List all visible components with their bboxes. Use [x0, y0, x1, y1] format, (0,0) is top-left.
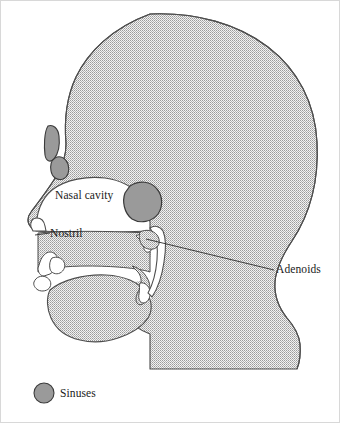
label-nostril: Nostril: [50, 228, 83, 240]
legend-swatch-sinuses: [34, 383, 54, 403]
anatomy-figure: Nasal cavity Nostril Adenoids Sinuses: [0, 0, 340, 423]
ethmoid-sinus: [51, 157, 69, 180]
frontal-sinus: [44, 125, 59, 161]
label-nasal-cavity: Nasal cavity: [55, 190, 113, 202]
label-adenoids: Adenoids: [276, 264, 321, 276]
head-anatomy-diagram: [0, 0, 340, 423]
tongue: [47, 275, 151, 342]
sphenoid-sinus: [124, 182, 162, 222]
legend-label-sinuses: Sinuses: [60, 388, 96, 400]
